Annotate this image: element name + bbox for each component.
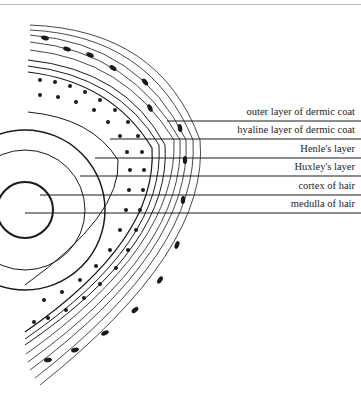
hyaline-layer bbox=[25, 60, 165, 345]
label-outer-dermic-coat: outer layer of dermic coat bbox=[247, 106, 355, 118]
label-hyaline-layer: hyaline layer of dermic coat bbox=[237, 124, 355, 136]
label-huxleys-layer: Huxley's layer bbox=[295, 161, 356, 173]
label-henles-layer: Henle's layer bbox=[300, 143, 355, 155]
label-cortex-of-hair: cortex of hair bbox=[298, 180, 355, 192]
dermic-nuclei bbox=[41, 35, 188, 363]
label-medulla-of-hair: medulla of hair bbox=[291, 198, 355, 210]
